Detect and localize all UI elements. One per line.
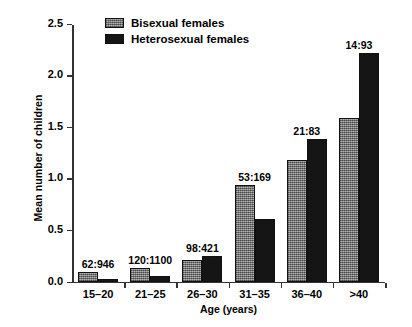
bar-group: 53:16931–35: [229, 24, 281, 282]
x-tick: [124, 283, 126, 288]
x-tick-label: >40: [350, 288, 369, 300]
bar-ratio-label: 21:83: [293, 125, 320, 137]
bar-group: 14:93>40: [333, 24, 385, 282]
x-tick: [385, 283, 387, 288]
x-tick-label: 15–20: [83, 288, 114, 300]
bar-ratio-label: 120:1100: [128, 254, 172, 266]
y-tick-label: 2.0: [48, 68, 63, 80]
y-tick: 0.0: [67, 282, 72, 284]
y-tick-label: 2.5: [48, 17, 63, 29]
bar-heterosexual: [307, 139, 327, 281]
bar-ratio-label: 62:946: [82, 258, 115, 270]
chart-figure: Mean number of children Bisexual females…: [0, 0, 412, 327]
y-tick-label: 0.0: [48, 275, 63, 287]
bar-bisexual: [78, 272, 98, 281]
x-tick: [333, 283, 335, 288]
bar-bisexual: [287, 160, 307, 282]
bar-group: 21:8336–40: [281, 24, 333, 282]
y-tick-label: 1.5: [48, 120, 63, 132]
bar-heterosexual: [255, 219, 275, 282]
bar-group: 120:110021–25: [124, 24, 176, 282]
bar-heterosexual: [150, 276, 170, 282]
bar-heterosexual: [98, 279, 118, 282]
plot-area: 0.00.51.01.52.02.5 62:94615–20120:110021…: [72, 25, 385, 283]
bar-ratio-label: 98:421: [186, 242, 219, 254]
bar-group: 98:42126–30: [176, 24, 228, 282]
x-tick: [281, 283, 283, 288]
y-tick-label: 0.5: [48, 223, 63, 235]
bar-bisexual: [182, 260, 202, 282]
bar-heterosexual: [359, 53, 379, 281]
bar-ratio-label: 14:93: [345, 39, 372, 51]
x-tick-label: 36–40: [291, 288, 322, 300]
x-tick: [229, 283, 231, 288]
bar-group: 62:94615–20: [72, 24, 124, 282]
bar-bisexual: [235, 185, 255, 282]
x-tick-label: 26–30: [187, 288, 218, 300]
x-axis-title: Age (years): [72, 303, 385, 315]
x-tick: [176, 283, 178, 288]
y-tick-label: 1.0: [48, 171, 63, 183]
x-tick-label: 21–25: [135, 288, 166, 300]
x-tick-label: 31–35: [239, 288, 270, 300]
bar-bisexual: [130, 268, 150, 281]
y-axis-title: Mean number of children: [32, 63, 44, 253]
bar-heterosexual: [202, 256, 222, 282]
bar-bisexual: [339, 118, 359, 281]
bar-ratio-label: 53:169: [238, 171, 271, 183]
